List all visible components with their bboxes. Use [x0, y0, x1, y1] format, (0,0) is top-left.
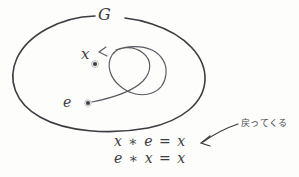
- equation-x-star-e: x ∗ e = x: [114, 134, 186, 148]
- point-label-x: x: [81, 47, 89, 62]
- point-marker-x: [92, 61, 99, 68]
- loop-arrow-e-to-x: [92, 47, 166, 102]
- point-marker-e: [85, 100, 91, 106]
- point-label-e: e: [63, 95, 71, 109]
- set-label-g: G: [98, 7, 111, 23]
- diagram-canvas: G x e x ∗ e = x e ∗ x = x 戻ってくる: [0, 0, 299, 177]
- annotation-pointer-arrow: [201, 124, 238, 146]
- group-set-ellipse: [13, 16, 205, 132]
- equation-e-star-x: e ∗ x = x: [114, 151, 186, 165]
- annotation-note-japanese: 戻ってくる: [241, 119, 288, 128]
